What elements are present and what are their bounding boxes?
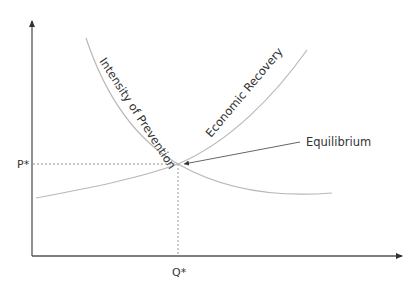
- p-star-label: P*: [17, 158, 30, 171]
- equilibrium-diagram: Intensity of Prevention Economic Recover…: [0, 0, 418, 284]
- intensity-of-prevention-curve: [86, 38, 332, 194]
- equilibrium-label: Equilibrium: [306, 135, 371, 149]
- intensity-label: Intensity of Prevention: [96, 55, 179, 172]
- q-star-label: Q*: [172, 266, 187, 279]
- equilibrium-arrow: [184, 142, 300, 164]
